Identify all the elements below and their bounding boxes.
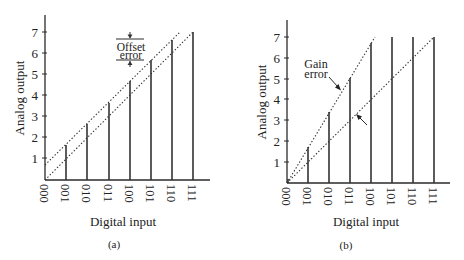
x-tick-label: 110 [405,187,419,205]
x-tick-label: 100 [363,187,377,206]
y-tick-label: 4 [32,88,39,103]
x-tick-label: 101 [384,187,398,206]
x-tick-label: 110 [164,184,178,202]
x-tick-label: 111 [185,184,199,202]
y-tick-label: 3 [32,109,39,124]
y-axis-label: Analog output [12,60,27,135]
y-tick-label: 1 [32,151,39,166]
dac-error-diagram: 1 2 3 4 5 6 7 Analog output [0,0,464,260]
gain-error-annotation: Gain error [304,57,367,125]
x-tick-label: 111 [426,187,440,205]
x-axis-label: Digital input [333,214,399,229]
y-axis-label: Analog output [254,64,269,139]
panel-caption: (b) [340,239,353,252]
arrow-down-icon [128,35,133,39]
x-tick-label: 001 [58,184,72,203]
panel-caption: (a) [108,238,121,251]
y-tick-label: 7 [32,25,39,40]
x-tick-labels: 000 001 010 011 100 101 110 111 [37,184,199,203]
x-axis-label: Digital input [90,214,156,229]
y-tick-label: 7 [274,30,281,45]
y-tick-label: 5 [274,72,281,87]
annotation-line2: error [120,49,143,61]
panel-a: 1 2 3 4 5 6 7 Analog output [12,15,210,251]
y-tick-label: 4 [274,92,281,107]
x-tick-label: 011 [342,187,356,205]
x-tick-label: 001 [300,187,314,206]
offset-error-annotation: Offset error [116,32,146,67]
x-tick-label: 000 [37,184,51,203]
offset-line [45,32,180,165]
x-tick-label: 100 [122,184,136,203]
gain-error-line [287,37,375,183]
y-tick-label: 6 [32,46,39,61]
y-tick-label: 3 [274,113,281,128]
arrow-up-icon [128,61,133,65]
x-tick-label: 101 [143,184,157,203]
y-tick-label: 2 [32,130,39,145]
y-tick-label: 1 [274,155,281,170]
panel-b: 1 2 3 4 5 6 7 Analog output Gain error [254,20,450,252]
x-tick-label: 011 [101,184,115,202]
y-tick-label: 2 [274,134,281,149]
x-tick-labels: 000 001 010 011 100 101 110 111 [279,187,440,206]
annotation-line2: error [304,67,327,81]
x-tick-label: 010 [321,187,335,206]
y-tick-label: 6 [274,51,281,66]
x-tick-label: 010 [79,184,93,203]
x-tick-label: 000 [279,187,293,206]
y-tick-label: 5 [32,67,39,82]
